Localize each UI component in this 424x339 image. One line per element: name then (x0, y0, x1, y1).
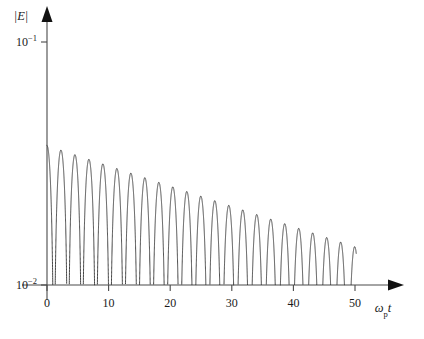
y-tick-label-lower: 10−2 (16, 276, 37, 292)
y-axis-arrowhead (42, 6, 53, 22)
x-tick-label-40: 40 (287, 296, 299, 310)
x-axis-arrowhead (388, 280, 404, 291)
damped-oscillation-curve (47, 146, 356, 285)
landau-damping-figure: 10−1 10−2 0 10 20 30 40 50 |E| ωpt (0, 0, 424, 339)
y-axis-group (41, 6, 53, 300)
x-axis-title: ωpt (375, 301, 392, 319)
x-axis-group (22, 280, 404, 292)
x-tick-label-30: 30 (226, 296, 238, 310)
x-tick-label-20: 20 (164, 296, 176, 310)
x-tick-label-10: 10 (103, 296, 115, 310)
x-tick-label-0: 0 (44, 296, 50, 310)
y-tick-label-upper: 10−1 (16, 33, 37, 49)
y-axis-title: |E| (14, 9, 29, 23)
x-tick-label-50: 50 (349, 296, 361, 310)
plot-canvas: 10−1 10−2 0 10 20 30 40 50 |E| ωpt (0, 0, 424, 339)
